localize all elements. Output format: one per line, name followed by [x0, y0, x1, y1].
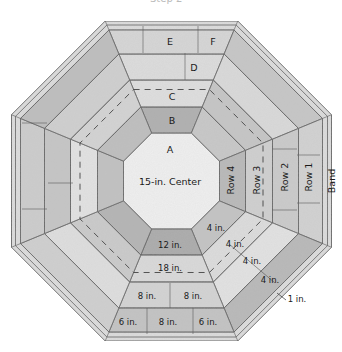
paver-segment: [119, 54, 224, 80]
bottom-label-8in-right: 8 in.: [184, 291, 203, 301]
bottom-label-6in-right: 6 in.: [199, 317, 218, 327]
bottom-label-12in: 12 in.: [158, 240, 182, 250]
bottom-label-8in-mid: 8 in.: [159, 317, 178, 327]
row-label-row4: Row 4: [225, 166, 236, 195]
diag-label-4in-1: 4 in.: [207, 223, 226, 233]
row-label-band: Band: [326, 169, 337, 193]
bottom-label-18in: 18 in.: [158, 263, 182, 273]
row-label-d: D: [190, 62, 197, 73]
diag-label-1in: 1 in.: [288, 294, 307, 304]
diag-label-4in-2: 4 in.: [226, 239, 245, 249]
diag-label-4in-4: 4 in.: [261, 275, 280, 285]
bottom-label-8in-left: 8 in.: [138, 291, 157, 301]
row-label-row2: Row 2: [279, 163, 290, 192]
row-label-row3: Row 3: [251, 166, 262, 195]
center-letter-a: A: [167, 144, 174, 155]
diag-label-4in-3: 4 in.: [243, 256, 262, 266]
bottom-label-6in-left: 6 in.: [119, 317, 138, 327]
octagon-paver-diagram: A 15-in. Center B C D E F Row 4 Row 3 Ro…: [0, 0, 342, 352]
paver-segment: [71, 139, 98, 223]
row-label-c: C: [169, 91, 176, 102]
paver-segment: [45, 128, 71, 233]
center-label: 15-in. Center: [139, 176, 201, 187]
row-label-e: E: [167, 36, 173, 47]
row-label-row1: Row 1: [303, 163, 314, 192]
row-label-f: F: [210, 36, 215, 47]
paver-segment: [119, 282, 224, 308]
row-label-b: B: [169, 115, 176, 126]
paver-segment: [21, 118, 45, 243]
